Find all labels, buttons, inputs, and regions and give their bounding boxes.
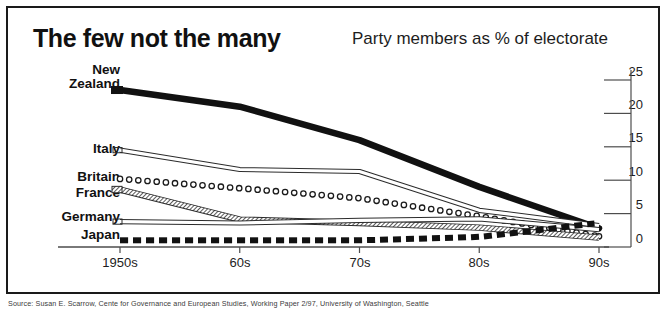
series-marker-2-19 xyxy=(292,190,297,195)
series-marker-2-36 xyxy=(447,209,452,214)
series-marker-2-5 xyxy=(163,180,168,185)
series-marker-2-24 xyxy=(337,194,342,199)
series-marker-2-15 xyxy=(255,187,260,192)
series-marker-2-12 xyxy=(227,185,232,190)
series-marker-2-9 xyxy=(200,183,205,188)
series-dash-5-29 xyxy=(497,234,505,235)
chart-plot-area xyxy=(0,0,668,310)
series-dash-5-31 xyxy=(523,231,531,232)
series-marker-2-2 xyxy=(136,178,141,183)
series-marker-2-32 xyxy=(410,204,415,209)
series-marker-2-16 xyxy=(264,188,269,193)
series-marker-2-27 xyxy=(365,197,370,202)
series-marker-2-17 xyxy=(273,189,278,194)
series-dash-5-34 xyxy=(561,226,569,227)
series-marker-2-1 xyxy=(127,177,132,182)
series-start-cap-3 xyxy=(112,186,122,192)
series-marker-2-8 xyxy=(191,182,196,187)
series-marker-2-23 xyxy=(328,193,333,198)
series-marker-2-0 xyxy=(117,176,122,181)
series-dash-5-27 xyxy=(471,237,479,238)
series-dash-5-32 xyxy=(536,229,544,230)
series-dash-5-36 xyxy=(587,224,594,225)
series-marker-2-35 xyxy=(438,208,443,213)
series-marker-2-6 xyxy=(172,181,177,186)
series-start-cap-0 xyxy=(111,86,123,94)
series-marker-2-7 xyxy=(182,181,187,186)
series-marker-2-37 xyxy=(456,210,461,215)
series-marker-2-21 xyxy=(310,192,315,197)
series-dash-5-35 xyxy=(574,225,582,226)
series-marker-2-4 xyxy=(154,179,159,184)
series-marker-2-25 xyxy=(347,195,352,200)
series-marker-2-28 xyxy=(374,198,379,203)
series-dash-5-28 xyxy=(484,236,492,237)
series-marker-2-10 xyxy=(209,183,214,188)
series-marker-2-13 xyxy=(237,186,242,191)
series-dash-5-33 xyxy=(549,228,557,229)
series-marker-2-31 xyxy=(401,202,406,207)
series-marker-2-38 xyxy=(465,212,470,217)
series-dash-5-30 xyxy=(510,233,518,234)
series-marker-2-20 xyxy=(301,191,306,196)
series-marker-2-14 xyxy=(246,186,251,191)
series-marker-2-11 xyxy=(218,184,223,189)
series-marker-2-29 xyxy=(383,200,388,205)
series-marker-2-33 xyxy=(419,205,424,210)
series-marker-2-3 xyxy=(145,178,150,183)
series-marker-2-22 xyxy=(319,192,324,197)
chart-figure: The few not the many Party members as % … xyxy=(0,0,668,310)
series-marker-2-26 xyxy=(356,195,361,200)
series-marker-2-30 xyxy=(392,201,397,206)
series-marker-2-18 xyxy=(282,189,287,194)
series-marker-2-34 xyxy=(429,206,434,211)
